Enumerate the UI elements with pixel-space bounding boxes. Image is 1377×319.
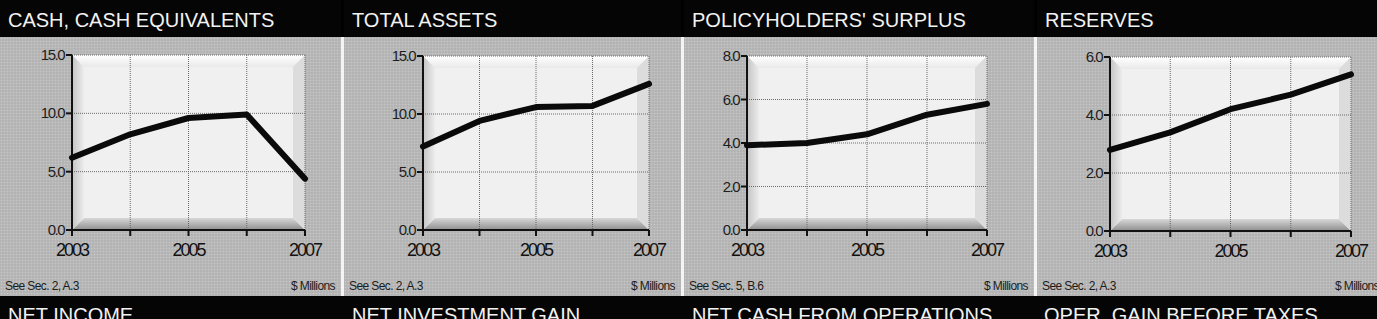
units-label: $ Millions: [1335, 279, 1377, 293]
y-tick-label: 4.0: [723, 134, 741, 151]
y-tick-label: 0.0: [48, 221, 66, 238]
y-tick-label: 0.0: [1086, 222, 1104, 239]
panel-reserves: RESERVES 6.04.02.00.0200320052007 See Se…: [1037, 0, 1377, 296]
panel-title: TOTAL ASSETS: [344, 0, 681, 37]
y-tick-label: 10.0: [41, 104, 65, 121]
x-tick-label: 2005: [1214, 241, 1248, 261]
line-chart: 8.06.04.02.00.0200320052007: [684, 37, 1034, 296]
y-tick-label: 2.0: [1086, 164, 1104, 181]
panel-title: POLICYHOLDERS' SURPLUS: [684, 0, 1034, 37]
line-chart: 15.010.05.00.0200320052007: [0, 37, 341, 296]
next-panel-title-net-cash-from-operations: NET CASH FROM OPERATIONS: [692, 304, 992, 319]
y-tick-label: 6.0: [723, 91, 741, 108]
panel-body: 8.06.04.02.00.0200320052007 See Sec. 5, …: [684, 37, 1034, 296]
bottom-title-row: NET INCOME NET INVESTMENT GAIN NET CASH …: [0, 296, 1377, 319]
x-tick-label: 2003: [1094, 241, 1128, 261]
top-chart-row: CASH, CASH EQUIVALENTS 15.010.05.00.0200…: [0, 0, 1377, 296]
x-tick-label: 2007: [971, 240, 1005, 260]
x-tick-label: 2007: [633, 240, 667, 260]
panel-policyholders-surplus: POLICYHOLDERS' SURPLUS 8.06.04.02.00.020…: [684, 0, 1034, 296]
y-tick-label: 4.0: [1086, 106, 1104, 123]
panel-body: 15.010.05.00.0200320052007 See Sec. 2, A…: [344, 37, 681, 296]
source-note: See Sec. 2, A.3: [5, 279, 79, 293]
panel-title: RESERVES: [1037, 0, 1377, 37]
next-panel-title-net-investment-gain: NET INVESTMENT GAIN: [352, 304, 580, 319]
y-tick-label: 2.0: [723, 178, 741, 195]
units-label: $ Millions: [631, 279, 675, 293]
x-tick-label: 2003: [407, 240, 441, 260]
y-tick-label: 6.0: [1086, 48, 1104, 65]
y-tick-label: 5.0: [399, 163, 417, 180]
panel-cash-equivalents: CASH, CASH EQUIVALENTS 15.010.05.00.0200…: [0, 0, 341, 296]
y-tick-label: 15.0: [392, 47, 416, 64]
panel-body: 15.010.05.00.0200320052007 See Sec. 2, A…: [0, 37, 341, 296]
panel-total-assets: TOTAL ASSETS 15.010.05.00.0200320052007 …: [344, 0, 681, 296]
x-tick-label: 2005: [520, 240, 554, 260]
next-panel-title-oper-gain-before-taxes: OPER. GAIN BEFORE TAXES: [1044, 304, 1318, 319]
source-note: See Sec. 5, B.6: [689, 279, 763, 293]
x-tick-label: 2003: [56, 240, 90, 260]
y-tick-label: 10.0: [392, 105, 416, 122]
panel-body: 6.04.02.00.0200320052007 See Sec. 2, A.3…: [1037, 37, 1377, 296]
y-tick-label: 0.0: [723, 221, 741, 238]
y-tick-label: 15.0: [41, 46, 65, 63]
x-tick-label: 2005: [172, 240, 206, 260]
financial-charts-page: CASH, CASH EQUIVALENTS 15.010.05.00.0200…: [0, 0, 1377, 319]
y-tick-label: 5.0: [48, 163, 66, 180]
x-tick-label: 2007: [1335, 241, 1369, 261]
units-label: $ Millions: [291, 279, 335, 293]
y-tick-label: 8.0: [723, 47, 741, 64]
x-tick-label: 2005: [851, 240, 885, 260]
y-tick-label: 0.0: [399, 221, 417, 238]
source-note: See Sec. 2, A.3: [349, 279, 423, 293]
line-chart: 6.04.02.00.0200320052007: [1037, 37, 1377, 296]
units-label: $ Millions: [984, 279, 1028, 293]
x-tick-label: 2007: [289, 240, 323, 260]
panel-title: CASH, CASH EQUIVALENTS: [0, 0, 341, 37]
x-tick-label: 2003: [731, 240, 765, 260]
source-note: See Sec. 2, A.3: [1042, 279, 1116, 293]
line-chart: 15.010.05.00.0200320052007: [344, 37, 681, 296]
next-panel-title-net-income: NET INCOME: [8, 304, 133, 319]
